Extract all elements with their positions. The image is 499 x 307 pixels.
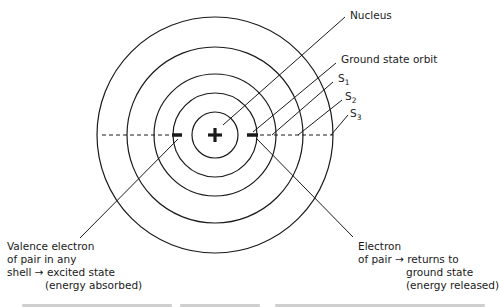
label-s2: S2 — [345, 90, 356, 107]
label-ground-state-orbit: Ground state orbit — [341, 53, 437, 66]
atom-diagram: Nucleus Ground state orbit S1 S2 S3 Vale… — [0, 0, 499, 307]
label-electron-of-pair: Electron of pair → returns to ground sta… — [358, 240, 499, 292]
label-nucleus: Nucleus — [350, 9, 392, 22]
leader-s3 — [331, 115, 348, 135]
nucleus-plus-icon — [208, 128, 222, 142]
label-s3: S3 — [350, 107, 361, 124]
label-valence-electron: Valence electron of pair in any shell → … — [7, 240, 142, 292]
leader-electron — [256, 138, 353, 237]
label-s1: S1 — [338, 72, 349, 89]
leader-ground-state — [253, 63, 336, 132]
